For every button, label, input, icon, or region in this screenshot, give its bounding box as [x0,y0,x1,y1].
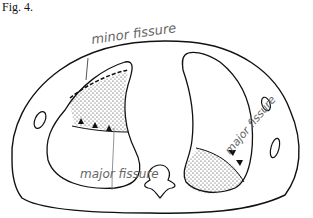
chest-ct-diagram: minor fissure major fissure major fissur… [0,0,313,218]
major-fissure-annotation-right: major fissure [80,167,159,181]
lower-lobe [184,148,244,194]
major-fissure-annotation-left: major fissure [222,93,278,157]
rib-right-lower [269,137,282,158]
rib-left [32,110,49,131]
arrowhead-icon [236,160,243,166]
